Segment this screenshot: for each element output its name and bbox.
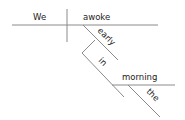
- verb-word: awoke: [83, 12, 110, 22]
- object-word: morning: [122, 72, 157, 82]
- preposition-connector: [82, 40, 95, 53]
- adverb-word: early: [96, 25, 118, 47]
- sentence-diagram: We awoke early in morning the: [0, 0, 185, 120]
- subject-word: We: [33, 12, 46, 22]
- preposition-word: in: [97, 55, 110, 68]
- article-word: the: [145, 86, 162, 103]
